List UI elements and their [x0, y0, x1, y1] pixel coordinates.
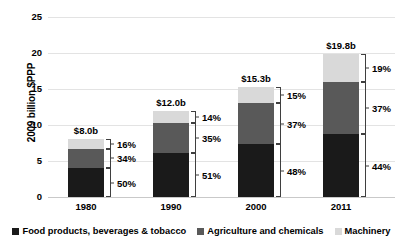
brace-tick-icon	[281, 170, 284, 171]
brace-icon	[106, 149, 111, 169]
bar-total-label: $15.3b	[221, 73, 291, 84]
brace-tick-icon	[366, 165, 369, 166]
brace-icon	[276, 144, 281, 197]
brace-tick-icon	[281, 95, 284, 96]
chart-legend: Food products, beverages & tobaccoAgricu…	[0, 226, 403, 236]
y-axis-tick-label: 25	[14, 12, 42, 22]
brace-icon	[361, 134, 366, 197]
brace-tick-icon	[196, 174, 199, 175]
segment-percent-label: 44%	[372, 160, 391, 171]
segment-percent-label: 16%	[117, 138, 136, 149]
segment-percent-label: 48%	[287, 165, 306, 176]
gridline	[48, 197, 395, 198]
segment-percent-label: 35%	[202, 132, 221, 143]
bar-segment[interactable]	[68, 168, 104, 197]
legend-swatch-icon	[12, 228, 19, 235]
x-axis-tick-label: 1990	[136, 201, 206, 212]
legend-label: Machinery	[345, 226, 391, 236]
brace-tick-icon	[111, 158, 114, 159]
segment-percent-label: 50%	[117, 177, 136, 188]
stacked-bar-chart: 2009 billion $PPP 0510152025$8.0b16%34%5…	[0, 0, 403, 245]
bar-segment[interactable]	[238, 103, 274, 144]
legend-item[interactable]: Food products, beverages & tobacco	[12, 226, 186, 236]
bar-1990[interactable]	[153, 111, 189, 197]
y-axis-tick-label: 15	[14, 84, 42, 94]
brace-icon	[276, 103, 281, 144]
brace-icon	[191, 153, 196, 197]
bar-segment[interactable]	[153, 123, 189, 153]
segment-percent-label: 37%	[287, 118, 306, 129]
segment-percent-label: 51%	[202, 169, 221, 180]
x-axis-tick-label: 2000	[221, 201, 291, 212]
bar-segment[interactable]	[68, 139, 104, 148]
brace-icon	[106, 168, 111, 197]
bar-segment[interactable]	[323, 82, 359, 135]
brace-icon	[361, 82, 366, 135]
y-axis-tick-label: 0	[14, 192, 42, 202]
segment-percent-label: 37%	[372, 102, 391, 113]
bar-segment[interactable]	[238, 87, 274, 104]
bar-segment[interactable]	[323, 54, 359, 81]
plot-area: 0510152025$8.0b16%34%50%$12.0b14%35%51%$…	[48, 17, 395, 197]
brace-icon	[361, 54, 366, 81]
legend-item[interactable]: Machinery	[335, 226, 391, 236]
bar-1980[interactable]	[68, 139, 104, 197]
bar-segment[interactable]	[238, 144, 274, 197]
bar-segment[interactable]	[68, 149, 104, 169]
brace-tick-icon	[281, 123, 284, 124]
y-axis-tick-label: 5	[14, 156, 42, 166]
brace-icon	[106, 139, 111, 148]
bar-total-label: $8.0b	[51, 125, 121, 136]
segment-percent-label: 19%	[372, 62, 391, 73]
brace-icon	[191, 111, 196, 123]
brace-tick-icon	[366, 107, 369, 108]
legend-swatch-icon	[335, 228, 342, 235]
bar-total-label: $12.0b	[136, 97, 206, 108]
brace-tick-icon	[366, 67, 369, 68]
legend-label: Agriculture and chemicals	[207, 226, 323, 236]
y-axis-tick-label: 20	[14, 48, 42, 58]
brace-tick-icon	[111, 182, 114, 183]
y-axis-tick-label: 10	[14, 120, 42, 130]
x-axis-tick-label: 1980	[51, 201, 121, 212]
legend-item[interactable]: Agriculture and chemicals	[197, 226, 323, 236]
brace-tick-icon	[196, 137, 199, 138]
bar-segment[interactable]	[153, 111, 189, 123]
segment-percent-label: 15%	[287, 90, 306, 101]
legend-swatch-icon	[197, 228, 204, 235]
brace-icon	[276, 87, 281, 104]
legend-label: Food products, beverages & tobacco	[22, 226, 186, 236]
brace-icon	[191, 123, 196, 153]
x-axis-tick-label: 2011	[306, 201, 376, 212]
bar-total-label: $19.8b	[306, 40, 376, 51]
bar-2000[interactable]	[238, 87, 274, 197]
bar-segment[interactable]	[153, 153, 189, 197]
brace-tick-icon	[196, 116, 199, 117]
gridline	[48, 17, 395, 18]
segment-percent-label: 34%	[117, 153, 136, 164]
bar-segment[interactable]	[323, 134, 359, 197]
bar-2011[interactable]	[323, 54, 359, 197]
brace-tick-icon	[111, 143, 114, 144]
segment-percent-label: 14%	[202, 111, 221, 122]
